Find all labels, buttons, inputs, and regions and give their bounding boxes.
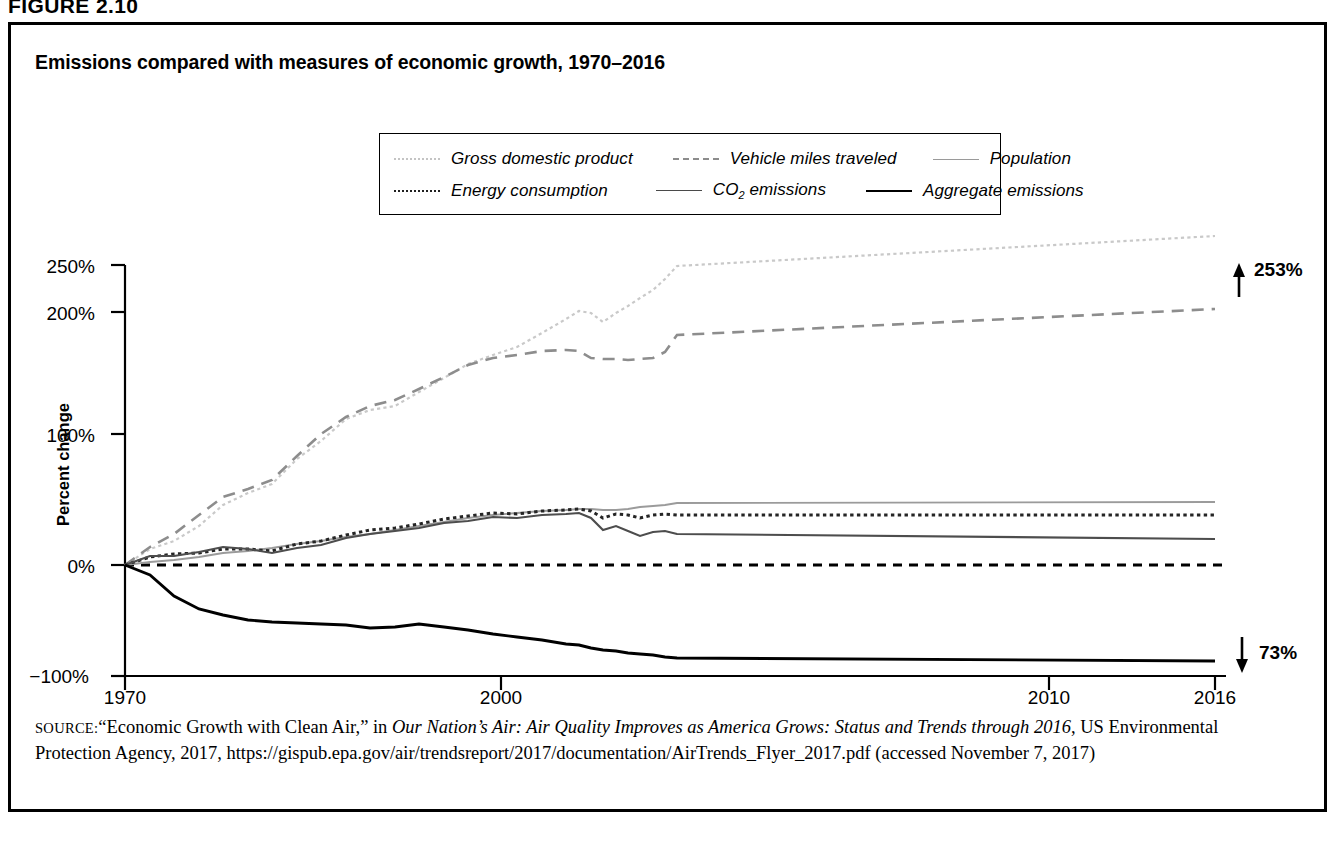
- figure-frame: Emissions compared with measures of econ…: [8, 22, 1327, 812]
- source-text-1: “Economic Growth with Clean Air,” in: [98, 717, 392, 737]
- up-arrow-icon: [1233, 263, 1245, 297]
- series-line-population: [125, 502, 1215, 565]
- y-tick-marks: [111, 265, 125, 676]
- chart-svg-canvas: [11, 25, 1330, 815]
- figure-number: FIGURE 2.10: [8, 0, 138, 18]
- series-line-gross-domestic-product: [125, 236, 1215, 565]
- chart-plot-area: Percent change 250% 200% 100% 0% −100% 1…: [11, 25, 1330, 815]
- source-italic-title: Our Nation’s Air: Air Quality Improves a…: [392, 717, 1071, 737]
- source-prefix: SOURCE:: [35, 720, 98, 736]
- x-tick-marks: [125, 676, 1215, 690]
- series-line-aggregate-emissions: [125, 565, 1215, 661]
- down-arrow-icon: [1236, 637, 1248, 673]
- series-line-co2-emissions: [125, 513, 1215, 565]
- source-note: SOURCE:“Economic Growth with Clean Air,”…: [35, 715, 1293, 766]
- series-line-vehicle-miles-traveled: [125, 309, 1215, 565]
